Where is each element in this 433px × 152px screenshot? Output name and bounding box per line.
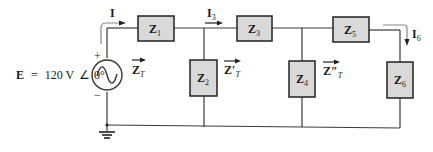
wires	[105, 28, 400, 131]
label-ZT-double-prime: Z″T	[323, 60, 343, 81]
impedance-Z6: Z6	[387, 62, 413, 98]
plus-sign: +	[94, 49, 101, 63]
current-arrow-I	[101, 23, 122, 44]
impedance-Z2: Z2	[190, 60, 217, 96]
svg-text:ZT: ZT	[132, 63, 145, 79]
circuit-diagram: + − E = 120 V ∠ 0° I I3 I6 Z1 Z2 Z3 Z4 Z…	[0, 0, 433, 152]
source-label: E = 120 V ∠ 0°	[16, 68, 105, 82]
svg-text:Z″T: Z″T	[323, 64, 343, 80]
impedance-Z1: Z1	[138, 16, 174, 41]
current-label-I3: I3	[207, 6, 216, 22]
current-label-I6: I6	[412, 27, 421, 43]
label-ZT: ZT	[132, 58, 146, 80]
impedance-Z3: Z3	[237, 16, 272, 41]
impedance-Z5: Z5	[333, 17, 369, 42]
impedance-Z4: Z4	[289, 61, 315, 97]
current-arrow-I6	[383, 25, 407, 42]
label-ZT-prime: Z′T	[224, 59, 241, 80]
ground-icon	[99, 132, 115, 138]
minus-sign: −	[94, 88, 101, 102]
current-label-I: I	[110, 6, 115, 20]
svg-text:Z′T: Z′T	[224, 63, 240, 79]
